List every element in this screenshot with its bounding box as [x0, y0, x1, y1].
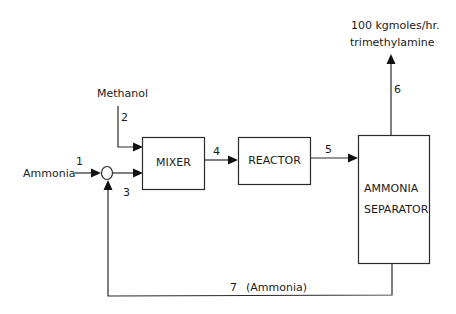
stream-7-arrowhead-icon	[104, 180, 113, 190]
stream-4-arrowhead-icon	[228, 156, 238, 165]
stream-1-number: 1	[76, 155, 83, 168]
stream-1-arrowhead-icon	[91, 169, 101, 178]
stream-2-number: 2	[121, 111, 128, 124]
stream-4-number: 4	[213, 145, 220, 158]
separator-box	[359, 136, 430, 264]
stream-5-arrowhead-icon	[348, 154, 358, 163]
mixer-unit: MIXER	[143, 138, 205, 190]
recycle-junction-circle	[102, 167, 113, 180]
stream-5-number: 5	[325, 143, 332, 156]
product-name-label: trimethylamine	[350, 36, 435, 49]
process-flow-diagram: Ammonia 1 3 Methanol 2 MIXER 4 REACTOR 5…	[0, 0, 456, 314]
mixer-label: MIXER	[156, 156, 191, 169]
separator-label-line1: AMMONIA	[364, 182, 419, 195]
separator-label-line2: SEPARATOR	[364, 203, 429, 216]
product-flow-label: 100 kgmoles/hr.	[351, 19, 440, 32]
stream-7-line	[108, 188, 392, 296]
stream-3-number: 3	[123, 186, 130, 199]
stream-2-arrowhead-icon	[133, 143, 143, 152]
stream-7-label: (Ammonia)	[246, 281, 307, 294]
methanol-feed-label: Methanol	[97, 87, 148, 100]
ammonia-separator-unit: AMMONIA SEPARATOR	[359, 136, 430, 264]
stream-3-arrowhead-icon	[133, 169, 143, 178]
stream-6-arrowhead-icon	[387, 54, 396, 64]
stream-6-number: 6	[394, 83, 401, 96]
ammonia-feed-label: Ammonia	[23, 167, 75, 180]
stream-7-number: 7	[230, 281, 237, 294]
reactor-unit: REACTOR	[239, 138, 311, 185]
reactor-label: REACTOR	[248, 154, 301, 167]
